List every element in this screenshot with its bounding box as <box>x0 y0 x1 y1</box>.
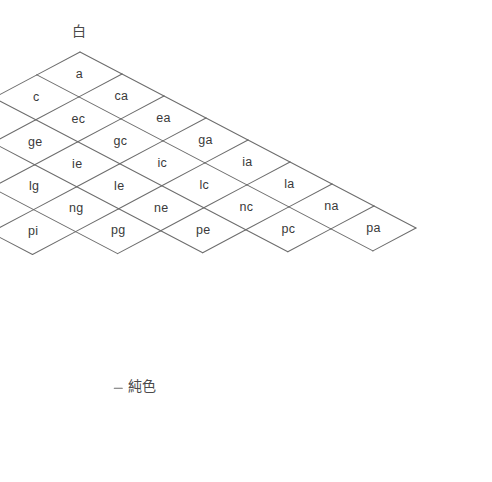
lattice-line <box>0 75 37 98</box>
cell-label-ea: ea <box>156 111 171 125</box>
lattice-line <box>0 98 36 120</box>
pure-color-axis-label: 純色 <box>128 379 156 393</box>
cell-label-ca: ca <box>115 89 129 103</box>
ostwald-triangle-figure: acegilnpcaecgeiglinlpneagcielgniplgaicle… <box>0 0 492 482</box>
cell-label-ia: ia <box>242 155 252 169</box>
cell-label-pe: pe <box>196 223 211 237</box>
cell-label-ga: ga <box>198 133 213 147</box>
lattice-line <box>35 165 77 187</box>
white-axis-label: 白 <box>72 24 86 38</box>
cell-label-ie: ie <box>72 157 82 171</box>
cell-label-c: c <box>33 90 40 104</box>
lattice-line <box>37 52 80 75</box>
cell-label-ng: ng <box>69 201 84 215</box>
cell-label-pa: pa <box>366 221 381 235</box>
cell-label-lc: lc <box>200 178 210 192</box>
cell-label-lg: lg <box>29 179 39 193</box>
lattice-line <box>80 52 122 74</box>
lattice-line <box>37 75 79 97</box>
cell-label-ge: ge <box>28 135 43 149</box>
cell-label-le: le <box>114 179 124 193</box>
cell-label-ec: ec <box>71 112 85 126</box>
cell-label-na: na <box>324 199 339 213</box>
cell-label-pg: pg <box>111 223 126 237</box>
lattice-line <box>33 232 76 255</box>
cell-label-la: la <box>284 177 294 191</box>
cell-label-nc: nc <box>239 200 253 214</box>
cell-label-a: a <box>76 67 83 81</box>
lattice-line <box>205 163 247 185</box>
lattice-line <box>162 163 205 186</box>
lattice-lines <box>0 52 416 388</box>
cell-label-ic: ic <box>158 156 168 170</box>
lattice-line <box>290 162 332 184</box>
color-triangle-diagram: acegilnpcaecgeiglinlpneagcielgniplgaicle… <box>0 0 492 482</box>
cell-label-pc: pc <box>281 222 295 236</box>
lattice-line <box>120 164 162 186</box>
cell-label-gc: gc <box>113 134 127 148</box>
cell-label-pi: pi <box>28 224 38 238</box>
lattice-line <box>248 140 290 162</box>
cell-label-ne: ne <box>154 201 169 215</box>
